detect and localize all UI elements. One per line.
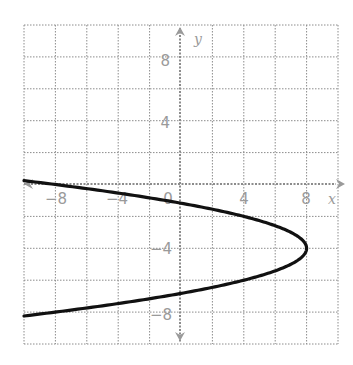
x-axis-right-arrow-icon [336, 179, 345, 189]
x-axis-label: x [328, 191, 336, 207]
x-tick-label: −8 [45, 190, 67, 208]
y-axis-label: y [193, 31, 203, 47]
parabola-graph: −8 −4 0 4 8 x 8 4 −4 −8 y [0, 0, 353, 365]
y-tick-label: 4 [160, 114, 170, 132]
y-axis-up-arrow-icon [175, 27, 185, 36]
y-tick-label: 8 [160, 52, 170, 70]
y-tick-label: −4 [150, 240, 172, 258]
axes [24, 27, 345, 342]
x-tick-label: 4 [239, 190, 249, 208]
y-tick-label: −8 [150, 306, 172, 324]
x-tick-label: 8 [301, 190, 311, 208]
